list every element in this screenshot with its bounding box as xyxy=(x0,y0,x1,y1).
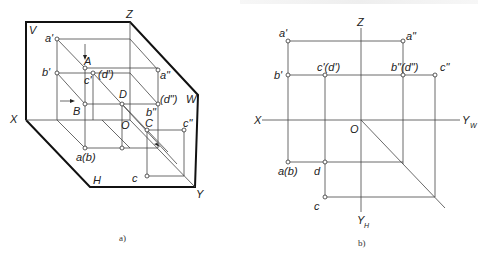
label-c: c xyxy=(132,172,138,184)
label-yw-sub: W xyxy=(470,122,478,129)
label-x-b: X xyxy=(253,114,262,126)
projection-diagram: V Z W X H Y a' A b' c' (d') a" B D b" (d… xyxy=(0,0,478,253)
label-x: X xyxy=(9,113,18,125)
label-b-prime-b: b' xyxy=(274,69,283,81)
label-c-dprime: c" xyxy=(183,117,194,129)
label-a-dprime: a" xyxy=(160,69,171,81)
label-yh-sub: H xyxy=(364,222,370,229)
caption-b: b) xyxy=(358,238,366,248)
label-c-dprime-b: c" xyxy=(440,61,451,73)
label-o: O xyxy=(121,119,130,131)
label-o-b: O xyxy=(350,123,359,135)
label-D: D xyxy=(119,88,127,100)
label-w: W xyxy=(186,93,198,105)
label-d-b: d xyxy=(314,165,321,177)
label-d-prime: (d') xyxy=(98,68,114,80)
label-c-prime: c' xyxy=(84,74,93,86)
label-A: A xyxy=(83,55,91,67)
label-ab: a(b) xyxy=(76,151,96,163)
label-d-dprime: (d") xyxy=(160,93,178,105)
label-b-prime: b' xyxy=(42,66,51,78)
label-v: V xyxy=(29,24,38,36)
label-y: Y xyxy=(196,188,204,200)
label-h: H xyxy=(93,174,101,186)
figure-a: V Z W X H Y a' A b' c' (d') a" B D b" (d… xyxy=(9,8,204,243)
label-z-b: Z xyxy=(356,16,365,28)
label-a-prime: a' xyxy=(45,32,54,44)
label-cd-prime-b: c'(d') xyxy=(317,61,340,73)
label-a-dprime-b: a" xyxy=(406,30,417,42)
label-C: C xyxy=(145,117,153,129)
caption-a: a) xyxy=(119,233,126,243)
figure-b: Z X O Y W Y H a' a" b' c'(d') b"(d") c" … xyxy=(253,16,478,248)
label-z: Z xyxy=(125,8,134,20)
label-c-b: c xyxy=(314,200,320,212)
label-ab-b: a(b) xyxy=(278,165,298,177)
label-yw: Y xyxy=(462,114,470,126)
label-bd-dprime-b: b"(d") xyxy=(391,61,419,73)
label-B: B xyxy=(73,105,80,117)
label-a-prime-b: a' xyxy=(279,27,288,39)
